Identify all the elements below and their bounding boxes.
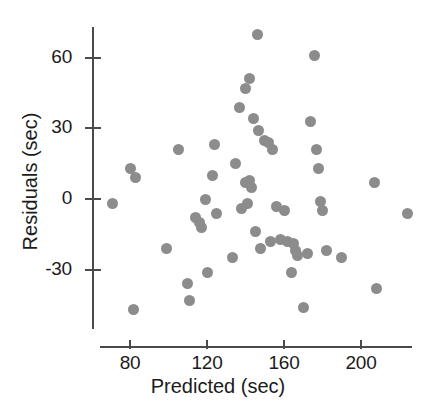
x-tick-120 [206, 340, 208, 349]
data-point [227, 252, 238, 263]
x-tick-label-80: 80 [100, 352, 160, 374]
data-point [311, 144, 322, 155]
data-point [255, 243, 266, 254]
data-point [317, 205, 328, 216]
data-point [336, 252, 347, 263]
x-axis-title: Predicted (sec) [0, 375, 436, 398]
data-point [234, 102, 245, 113]
y-tick--30 [85, 269, 101, 271]
data-point [309, 50, 320, 61]
data-point [248, 113, 259, 124]
data-point [184, 295, 195, 306]
data-point [211, 208, 222, 219]
y-axis-title: Residuals (sec) [19, 113, 41, 251]
y-axis-title-wrapper: Residuals (sec) [19, 62, 42, 302]
data-point [250, 226, 261, 237]
data-point [371, 283, 382, 294]
data-point [313, 163, 324, 174]
data-point [244, 73, 255, 84]
x-tick-label-120: 120 [177, 352, 237, 374]
data-point [305, 116, 316, 127]
data-point [286, 267, 297, 278]
data-point [267, 144, 278, 155]
y-tick-0 [85, 198, 101, 200]
data-point [246, 182, 257, 193]
data-point [402, 208, 413, 219]
data-point [161, 243, 172, 254]
data-point [252, 29, 263, 40]
y-tick-30 [85, 127, 101, 129]
x-tick-80 [129, 340, 131, 349]
y-axis-line [92, 27, 94, 329]
x-axis-line [100, 346, 412, 348]
data-point [230, 158, 241, 169]
data-point [209, 139, 220, 150]
x-tick-label-160: 160 [254, 352, 314, 374]
residual-scatter-figure: 60300-30 80120160200 Residuals (sec) Pre… [0, 0, 436, 404]
data-point [207, 170, 218, 181]
x-tick-160 [283, 340, 285, 349]
data-point [302, 248, 313, 259]
x-tick-label-200: 200 [331, 352, 391, 374]
data-point [369, 177, 380, 188]
data-point [242, 198, 253, 209]
y-tick-60 [85, 57, 101, 59]
data-point [200, 194, 211, 205]
data-point [182, 278, 193, 289]
data-point [240, 83, 251, 94]
data-point [196, 222, 207, 233]
data-point [128, 304, 139, 315]
data-point [202, 267, 213, 278]
data-point [130, 172, 141, 183]
data-point [279, 205, 290, 216]
data-point [173, 144, 184, 155]
data-point [107, 198, 118, 209]
data-point [298, 302, 309, 313]
plot-area: 60300-30 80120160200 [0, 0, 436, 404]
x-tick-200 [360, 340, 362, 349]
data-point [321, 245, 332, 256]
